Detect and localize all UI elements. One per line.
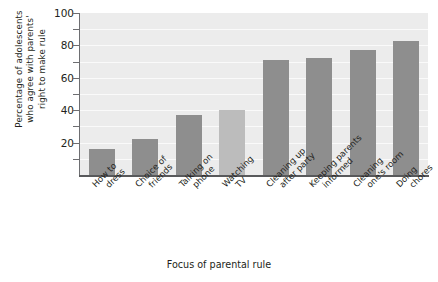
x-axis-line [79,175,429,177]
y-axis-tick-label: 20 [46,137,74,148]
gridline [80,45,428,46]
x-axis-title: Focus of parental rule [0,259,438,270]
gridline [80,110,428,111]
y-axis-tick-label: 40 [46,105,74,116]
y-axis-tick-label: 80 [46,40,74,51]
y-axis-tick-mark [73,143,79,144]
bar [176,115,202,175]
gridline [80,78,428,79]
bar [219,110,245,175]
y-axis-tick-mark [73,126,79,127]
y-axis-title-line-1: Percentage of adolescents [14,10,25,127]
bar [393,41,419,175]
plot-area [80,13,428,175]
bar [350,50,376,175]
gridline [80,29,428,30]
bar-chart-figure: Percentage of adolescents who agree with… [0,0,438,282]
bar [306,58,332,175]
y-axis-tick-mark [73,94,79,95]
y-axis-tick-mark [73,110,79,111]
bar [263,60,289,175]
y-axis-tick-mark [73,29,79,30]
y-axis-tick-label: 100 [46,8,74,19]
gridline [80,126,428,127]
y-axis-tick-labels: 20406080100 [46,0,74,282]
y-axis-tick-mark [73,13,79,14]
y-axis-tick-label: 60 [46,73,74,84]
gridline [80,62,428,63]
bar [132,139,158,175]
gridline [80,94,428,95]
y-axis-tick-mark [73,45,79,46]
y-axis-tick-mark [73,78,79,79]
y-axis-tick-mark [73,159,79,160]
bar [89,149,115,175]
y-axis-title-line-2: who agree with parents' [25,15,36,122]
y-axis-tick-mark [73,62,79,63]
